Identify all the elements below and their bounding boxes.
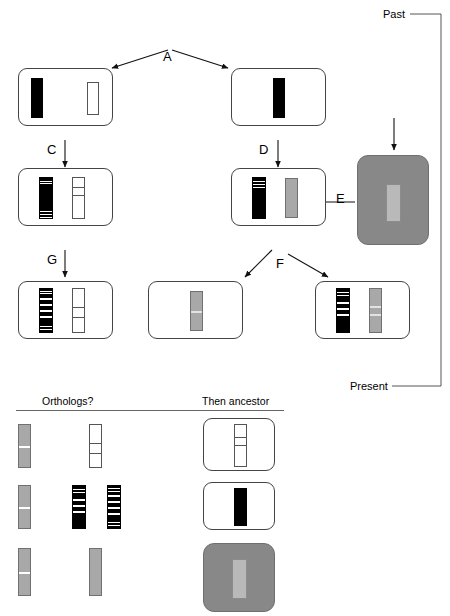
diagram-canvas: Past Present A B C D E F G [0,0,450,616]
box-bottom-right [315,281,410,339]
row3-ancestor-gray-chromosome [232,559,247,599]
box-mid-right [231,168,326,226]
row3-gray-chromosome-solid [89,548,102,596]
label-D: D [259,144,268,156]
chromosome-gray-outgroup [386,184,401,222]
chromosome-gray-bottomright [369,288,382,333]
box-shaded-outgroup [357,155,429,245]
label-A: A [163,51,172,63]
chromosome-gray-acquired-right [285,178,298,218]
box-top-left [18,68,113,126]
arrow-F [245,250,328,277]
row1-ancestor-box [203,418,275,471]
timeline-present-label: Present [350,380,388,392]
box-bottom-left [18,281,113,339]
chromosome-black-duplicated [31,78,43,118]
then-ancestor-header: Then ancestor [202,395,269,407]
orthologs-header: Orthologs? [42,395,93,407]
row1-ancestor-hollow-chromosome [234,424,247,467]
timeline-past-label: Past [383,8,405,20]
chromosome-black-striped-bottomleft [39,288,53,333]
row2-ancestor-black-chromosome [234,488,247,526]
box-mid-left [18,168,113,226]
label-F: F [276,258,284,270]
row3-ancestor-shaded-box [203,543,275,612]
box-bottom-middle [148,281,243,339]
row1-hollow-chromosome [89,424,102,468]
label-E: E [336,193,345,205]
chromosome-hollow-copy [87,82,99,115]
chromosome-black-banded-left [39,177,53,219]
chromosome-black-single [273,78,285,118]
chromosome-black-striped-bottomright [336,288,350,333]
box-top-right [231,68,326,126]
label-G: G [47,254,57,266]
bottom-panel-divider [16,410,284,411]
row2-black-striped-chromosome-b [107,485,121,529]
chromosome-black-banded-right [252,177,266,219]
chromosome-gray-bottommiddle [190,291,203,331]
row2-ancestor-box [203,482,275,530]
row3-gray-chromosome [18,548,31,596]
chromosome-hollow-banded-left [72,177,85,219]
row2-gray-chromosome [18,485,31,529]
row1-gray-chromosome [18,424,31,468]
label-C: C [47,144,56,156]
chromosome-hollow-bottomleft [72,288,85,333]
row2-black-striped-chromosome-a [72,485,86,529]
